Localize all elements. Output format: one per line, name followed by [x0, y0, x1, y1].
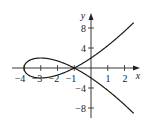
y-tick-label: −8	[75, 103, 86, 114]
x-tick-label: 2	[123, 73, 128, 84]
x-tick-label: 1	[106, 73, 111, 84]
x-tick-label: −4	[15, 73, 26, 84]
y-tick-label: 4	[81, 43, 86, 54]
y-axis-arrow-icon	[89, 13, 94, 20]
curve-chart: −4 −3 −2 −1 1 2 8 4 −4 −8 x y	[0, 0, 144, 126]
y-tick-label: 8	[81, 23, 86, 34]
y-tick-label: −4	[75, 83, 86, 94]
x-axis-label: x	[135, 70, 141, 81]
y-axis-label: y	[80, 10, 86, 21]
